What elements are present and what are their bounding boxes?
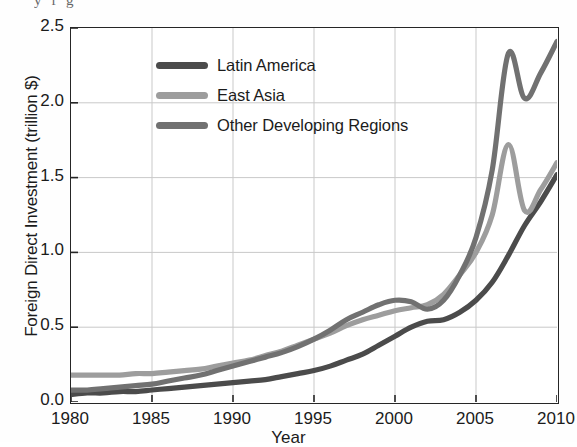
y-axis-title: Foreign Direct Investment (trillion $) (22, 6, 42, 406)
legend-swatch-icon (156, 122, 208, 129)
legend-item: Latin America (156, 56, 408, 74)
legend-item: Other Developing Regions (156, 116, 408, 134)
x-axis-title: Year (0, 428, 577, 447)
legend: Latin AmericaEast AsiaOther Developing R… (156, 56, 408, 134)
x-tick-label: 1995 (283, 409, 343, 429)
y-tick-label: 0.0 (20, 390, 64, 410)
y-tick-label: 0.5 (20, 315, 64, 335)
x-tick-label: 2005 (445, 409, 505, 429)
legend-label: Latin America (217, 56, 316, 75)
legend-label: Other Developing Regions (217, 116, 408, 135)
y-tick-label: 1.5 (20, 166, 64, 186)
x-tick-label: 1980 (40, 409, 100, 429)
x-tick-label: 2010 (526, 409, 577, 429)
cropped-header-text: y f g (0, 0, 577, 14)
legend-label: East Asia (217, 86, 285, 105)
x-tick-label: 1990 (202, 409, 262, 429)
legend-swatch-icon (156, 62, 208, 69)
y-tick-label: 1.0 (20, 240, 64, 260)
x-tick-label: 2000 (364, 409, 424, 429)
legend-swatch-icon (156, 92, 208, 99)
legend-item: East Asia (156, 86, 408, 104)
y-tick-label: 2.5 (20, 16, 64, 36)
y-tick-label: 2.0 (20, 91, 64, 111)
x-tick-label: 1985 (121, 409, 181, 429)
